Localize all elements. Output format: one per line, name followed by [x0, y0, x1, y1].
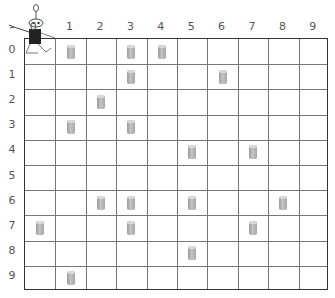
cell-3-7[interactable] [238, 115, 268, 140]
cell-8-2[interactable] [86, 241, 116, 266]
cell-4-0[interactable] [25, 140, 55, 165]
cell-7-4[interactable] [147, 215, 177, 240]
row-label: 1 [6, 68, 18, 81]
cell-6-7[interactable] [238, 190, 268, 215]
cell-8-1[interactable] [55, 241, 85, 266]
cell-0-7[interactable] [238, 39, 268, 64]
soda-can-icon [279, 196, 287, 210]
cell-8-4[interactable] [147, 241, 177, 266]
soda-can-icon [188, 196, 196, 210]
cell-8-9[interactable] [299, 241, 329, 266]
cell-3-9[interactable] [299, 115, 329, 140]
cell-4-8[interactable] [268, 140, 298, 165]
cell-4-4[interactable] [147, 140, 177, 165]
row-label: 9 [6, 269, 18, 282]
cell-0-2[interactable] [86, 39, 116, 64]
cell-3-6[interactable] [207, 115, 237, 140]
cell-9-0[interactable] [25, 266, 55, 291]
column-label: 2 [90, 20, 110, 33]
cell-9-8[interactable] [268, 266, 298, 291]
cell-2-6[interactable] [207, 89, 237, 114]
soda-can-icon [97, 95, 105, 109]
cell-2-4[interactable] [147, 89, 177, 114]
cell-8-3[interactable] [116, 241, 146, 266]
cell-1-8[interactable] [268, 64, 298, 89]
cell-1-7[interactable] [238, 64, 268, 89]
cell-9-2[interactable] [86, 266, 116, 291]
column-label: 7 [242, 20, 262, 33]
soda-can-icon [249, 221, 257, 235]
cell-2-1[interactable] [55, 89, 85, 114]
column-label: 0 [23, 20, 43, 33]
cell-8-7[interactable] [238, 241, 268, 266]
cell-8-8[interactable] [268, 241, 298, 266]
cell-9-5[interactable] [177, 266, 207, 291]
cell-4-2[interactable] [86, 140, 116, 165]
cell-6-4[interactable] [147, 190, 177, 215]
cell-7-9[interactable] [299, 215, 329, 240]
cell-2-3[interactable] [116, 89, 146, 114]
cell-9-9[interactable] [299, 266, 329, 291]
cell-3-0[interactable] [25, 115, 55, 140]
soda-can-icon [67, 45, 75, 59]
cell-7-1[interactable] [55, 215, 85, 240]
row-label: 8 [6, 244, 18, 257]
cell-0-6[interactable] [207, 39, 237, 64]
soda-can-icon [188, 246, 196, 260]
cell-9-7[interactable] [238, 266, 268, 291]
cell-2-9[interactable] [299, 89, 329, 114]
cell-5-0[interactable] [25, 165, 55, 190]
soda-can-icon [127, 221, 135, 235]
cell-5-5[interactable] [177, 165, 207, 190]
cell-7-6[interactable] [207, 215, 237, 240]
cell-5-4[interactable] [147, 165, 177, 190]
row-label: 7 [6, 219, 18, 232]
row-label: 6 [6, 194, 18, 207]
cell-4-3[interactable] [116, 140, 146, 165]
cell-6-1[interactable] [55, 190, 85, 215]
cell-3-5[interactable] [177, 115, 207, 140]
cell-5-8[interactable] [268, 165, 298, 190]
cell-4-1[interactable] [55, 140, 85, 165]
cell-6-0[interactable] [25, 190, 55, 215]
cell-1-9[interactable] [299, 64, 329, 89]
cell-1-1[interactable] [55, 64, 85, 89]
cell-9-3[interactable] [116, 266, 146, 291]
cell-7-2[interactable] [86, 215, 116, 240]
cell-5-6[interactable] [207, 165, 237, 190]
cell-7-8[interactable] [268, 215, 298, 240]
cell-7-5[interactable] [177, 215, 207, 240]
cell-3-8[interactable] [268, 115, 298, 140]
cell-8-0[interactable] [25, 241, 55, 266]
cell-6-6[interactable] [207, 190, 237, 215]
column-label: 1 [60, 20, 80, 33]
cell-2-0[interactable] [25, 89, 55, 114]
cell-3-2[interactable] [86, 115, 116, 140]
cell-5-9[interactable] [299, 165, 329, 190]
cell-3-4[interactable] [147, 115, 177, 140]
cell-0-8[interactable] [268, 39, 298, 64]
cell-4-6[interactable] [207, 140, 237, 165]
column-label: 6 [212, 20, 232, 33]
soda-can-icon [127, 196, 135, 210]
cell-5-2[interactable] [86, 165, 116, 190]
cell-1-0[interactable] [25, 64, 55, 89]
cell-4-9[interactable] [299, 140, 329, 165]
cell-0-9[interactable] [299, 39, 329, 64]
soda-can-icon [127, 120, 135, 134]
cell-2-8[interactable] [268, 89, 298, 114]
cell-0-5[interactable] [177, 39, 207, 64]
cell-1-4[interactable] [147, 64, 177, 89]
cell-9-4[interactable] [147, 266, 177, 291]
cell-5-3[interactable] [116, 165, 146, 190]
cell-5-1[interactable] [55, 165, 85, 190]
cell-8-6[interactable] [207, 241, 237, 266]
row-label: 5 [6, 169, 18, 182]
cell-9-6[interactable] [207, 266, 237, 291]
cell-1-2[interactable] [86, 64, 116, 89]
cell-2-7[interactable] [238, 89, 268, 114]
cell-5-7[interactable] [238, 165, 268, 190]
cell-1-5[interactable] [177, 64, 207, 89]
cell-6-9[interactable] [299, 190, 329, 215]
cell-2-5[interactable] [177, 89, 207, 114]
